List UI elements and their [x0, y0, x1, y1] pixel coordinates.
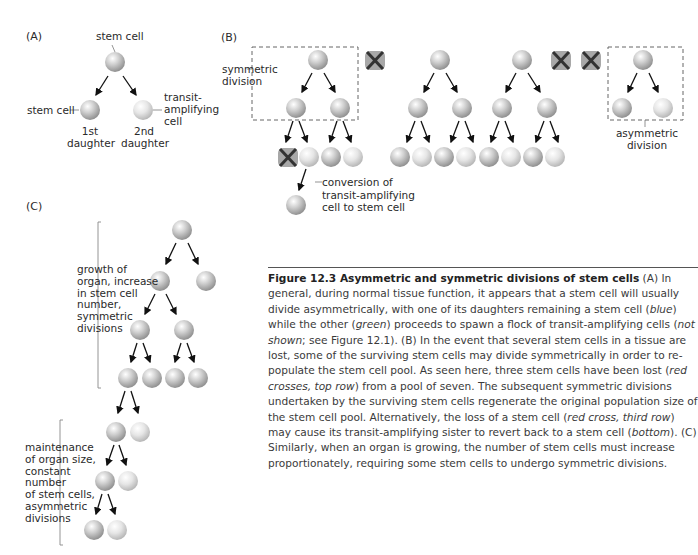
lost-cell-cross [551, 51, 571, 70]
caption-body: (A) In general, during normal tissue fun… [268, 272, 698, 469]
first-daughter-label: 1st daughter [67, 125, 113, 149]
conversion-label: conversion of transit-amplifying cell to… [322, 176, 415, 214]
growth-label: growth of organ, increase in stem cell n… [77, 264, 158, 335]
lost-cell-cross [365, 51, 385, 70]
transit-amplifying-label: transit- amplifying cell [164, 91, 219, 127]
stem-cell-daughter-label: stem cell [27, 104, 75, 117]
stem-cell-label: stem cell [96, 30, 144, 43]
lost-cell-cross [278, 148, 298, 167]
panel-a-diagram [70, 45, 162, 120]
stem-cell-sphere [105, 52, 125, 72]
panel-b-label: (B) [221, 31, 237, 44]
stem-cell-sphere [80, 100, 100, 120]
maintenance-label: maintenance of organ size, constant numb… [25, 442, 96, 525]
symmetric-division-label: symmetric division [222, 63, 278, 87]
panel-a-label: (A) [26, 30, 42, 43]
second-daughter-label: 2nd daughter [121, 125, 167, 149]
lost-cell-cross [581, 51, 601, 70]
transit-cell-sphere [133, 100, 153, 120]
converted-stem-cell [286, 195, 306, 215]
asymmetric-division-label: asymmetric division [611, 127, 683, 151]
figure-title: Asymmetric and symmetric divisions of st… [340, 272, 639, 284]
figure-caption: Figure 12.3 Asymmetric and symmetric div… [268, 267, 698, 471]
panel-c-label: (C) [26, 200, 42, 213]
figure-number: Figure 12.3 [268, 272, 340, 284]
